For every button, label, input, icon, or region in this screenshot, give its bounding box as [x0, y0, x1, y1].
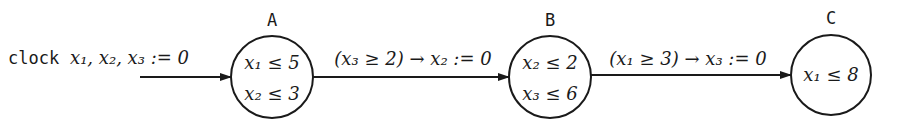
initial-declaration: clock x₁, x₂, x₃ := 0 [8, 47, 189, 68]
invariant: x₂ ≤ 3 [244, 83, 299, 104]
state-label: A [267, 10, 277, 30]
invariant: x₁ ≤ 8 [803, 64, 858, 85]
transition-label: (x₁ ≥ 3) → x₃ := 0 [609, 48, 766, 69]
clock-keyword: clock [8, 48, 59, 68]
invariant: x₁ ≤ 5 [244, 52, 299, 73]
state-circle [231, 36, 313, 118]
state-label: C [826, 8, 836, 28]
transition-label: (x₃ ≥ 2) → x₂ := 0 [334, 48, 491, 69]
transition-A-B: (x₃ ≥ 2) → x₂ := 0 [313, 48, 509, 77]
invariant: x₂ ≤ 2 [522, 52, 577, 73]
state-circle [509, 36, 591, 118]
clock-init: x₁, x₂, x₃ := 0 [70, 47, 189, 68]
state-A: A x₁ ≤ 5 x₂ ≤ 3 [231, 10, 313, 118]
invariant: x₃ ≤ 6 [522, 83, 577, 104]
state-B: B x₂ ≤ 2 x₃ ≤ 6 [509, 10, 591, 118]
state-label: B [545, 10, 555, 30]
timed-automaton-diagram: clock x₁, x₂, x₃ := 0 A x₁ ≤ 5 x₂ ≤ 3 (x… [0, 0, 909, 126]
transition-B-C: (x₁ ≥ 3) → x₃ := 0 [591, 48, 791, 75]
state-C: C x₁ ≤ 8 [791, 8, 871, 115]
